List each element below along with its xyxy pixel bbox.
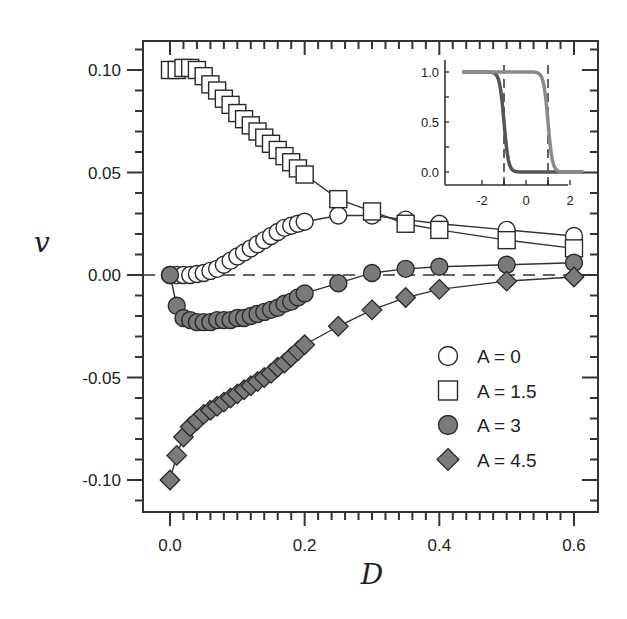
filled-diamond-marker xyxy=(160,470,180,490)
inset-x-tick-label: 2 xyxy=(566,193,573,208)
open-square-marker xyxy=(296,166,313,183)
y-tick-label: 0.10 xyxy=(88,61,121,80)
inset-x-tick-label: 0 xyxy=(522,193,529,208)
inset-y-tick-label: 0.5 xyxy=(421,115,439,130)
y-tick-label: -0.10 xyxy=(82,471,121,490)
filled-diamond-marker xyxy=(564,267,584,287)
series-a1.5 xyxy=(162,59,583,256)
open-circle-marker xyxy=(439,347,458,366)
inset-plot: -2020.00.51.0 xyxy=(421,60,583,208)
filled-diamond-marker xyxy=(396,288,416,308)
filled-circle-marker xyxy=(296,285,313,302)
y-tick-label: 0.00 xyxy=(88,266,121,285)
open-circle-marker xyxy=(296,213,313,230)
filled-circle-marker xyxy=(431,258,448,275)
x-tick-label: 0.6 xyxy=(562,536,586,555)
x-tick-label: 0.4 xyxy=(427,536,451,555)
legend: A = 0A = 1.5A = 3A = 4.5 xyxy=(437,346,537,471)
filled-circle-marker xyxy=(363,264,380,281)
legend-label: A = 3 xyxy=(477,415,521,436)
x-axis-title: D xyxy=(360,558,383,591)
y-tick-label: 0.05 xyxy=(88,164,121,183)
open-square-marker xyxy=(439,381,458,400)
open-square-marker xyxy=(397,215,414,232)
open-square-marker xyxy=(330,191,347,208)
filled-diamond-marker xyxy=(329,316,349,336)
filled-diamond-marker xyxy=(437,449,459,471)
inset-curve xyxy=(462,72,583,172)
open-square-marker xyxy=(363,203,380,220)
open-circle-marker xyxy=(330,207,347,224)
inset-y-tick-label: 1.0 xyxy=(421,65,439,80)
x-tick-label: 0.0 xyxy=(158,536,182,555)
open-square-marker xyxy=(498,232,515,249)
chart: 0.00.20.40.60.100.050.00-0.05-0.10 -2020… xyxy=(0,0,627,619)
inset-y-tick-label: 0.0 xyxy=(421,165,439,180)
filled-circle-marker xyxy=(439,416,458,435)
filled-circle-marker xyxy=(397,260,414,277)
inset-curve xyxy=(462,72,583,172)
filled-circle-marker xyxy=(330,275,347,292)
y-tick-label: -0.05 xyxy=(82,369,121,388)
open-square-marker xyxy=(431,221,448,238)
filled-diamond-marker xyxy=(167,446,187,466)
axis-ticks: 0.00.20.40.60.100.050.00-0.05-0.10 xyxy=(82,41,598,555)
y-axis-title: v xyxy=(34,226,50,259)
filled-diamond-marker xyxy=(430,280,450,300)
filled-diamond-marker xyxy=(362,300,382,320)
filled-circle-marker xyxy=(162,267,179,284)
inset-x-tick-label: -2 xyxy=(476,193,488,208)
legend-label: A = 4.5 xyxy=(477,450,537,471)
legend-label: A = 1.5 xyxy=(477,381,537,402)
legend-label: A = 0 xyxy=(477,346,521,367)
x-tick-label: 0.2 xyxy=(293,536,317,555)
